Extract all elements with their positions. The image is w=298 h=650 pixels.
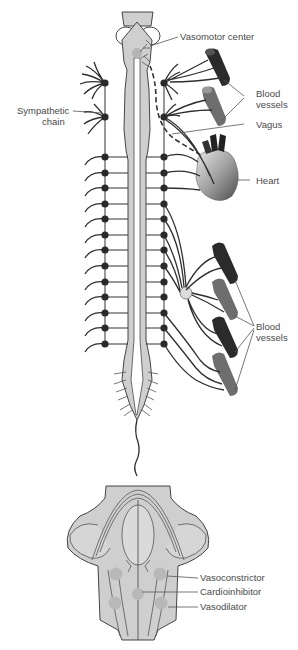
ganglion-left (101, 309, 108, 316)
vasodilator-nucleus-right (155, 597, 168, 610)
circulation-control-diagram: Vasomotor center Blood vessels Sympathet… (0, 0, 298, 650)
label-vagus: Vagus (256, 119, 282, 130)
ganglion-left (101, 340, 108, 347)
ganglion-right (160, 293, 167, 300)
label-vasodilator: Vasodilator (200, 601, 247, 612)
ganglion-left (101, 278, 108, 285)
ganglion-left (101, 324, 108, 331)
vasoconstrictor-nucleus-left (110, 568, 123, 581)
heart (164, 117, 238, 201)
ganglion-left (101, 246, 108, 253)
label-sympathetic-chain-1: Sympathetic (17, 105, 70, 116)
vasomotor-center-spot (132, 48, 142, 58)
lower-vessels (164, 204, 238, 396)
medulla (67, 486, 209, 640)
ganglion-left (101, 262, 108, 269)
ganglion-left (101, 184, 108, 191)
vasoconstrictor-nucleus-right (154, 568, 167, 581)
spinal-cord (116, 12, 160, 476)
segmental-ganglia (85, 153, 168, 352)
label-blood-vessels-top-2: vessels (256, 99, 288, 110)
label-vasomotor-center: Vasomotor center (180, 31, 254, 42)
cardioinhibitor-nucleus (132, 588, 144, 600)
ganglion-left (101, 153, 108, 160)
ganglion-left (101, 231, 108, 238)
collateral-ganglion (180, 287, 192, 299)
ganglion-left (101, 215, 108, 222)
ganglion-left (101, 169, 108, 176)
label-blood-vessels-top-1: Blood (256, 88, 280, 99)
vasodilator-nucleus-left (109, 597, 122, 610)
label-cardioinhibitor: Cardioinhibitor (200, 586, 261, 597)
label-vasoconstrictor: Vasoconstrictor (200, 572, 265, 583)
vagus-nerve (150, 66, 206, 158)
ganglion-right (160, 278, 167, 285)
label-blood-vessels-bottom-1: Blood (256, 321, 280, 332)
ganglion-left (101, 293, 108, 300)
ganglion-left (101, 200, 108, 207)
label-sympathetic-chain-2: chain (42, 116, 65, 127)
label-heart: Heart (256, 175, 280, 186)
label-blood-vessels-bottom-2: vessels (256, 332, 288, 343)
